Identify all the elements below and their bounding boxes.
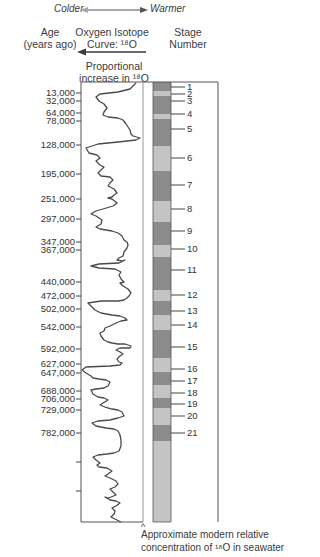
stage-label: 3 [187, 96, 192, 106]
stage-band [153, 358, 171, 372]
stage-label: 7 [187, 180, 192, 190]
age-label: 729,000 [41, 405, 75, 415]
stage-label: 9 [187, 226, 192, 236]
stage-band [153, 201, 171, 222]
stage-band [153, 257, 171, 290]
stage-band [153, 96, 171, 103]
stage-label: 6 [187, 153, 192, 163]
stage-band [153, 82, 171, 91]
age-label: 782,000 [41, 428, 75, 438]
stage-label: 5 [187, 124, 192, 134]
stage-band [153, 315, 171, 330]
stage-bands [153, 82, 171, 522]
stage-band [153, 146, 171, 171]
age-label: 367,000 [41, 245, 75, 255]
stage-band [153, 222, 171, 245]
age-label: 647,000 [41, 368, 75, 378]
stage-label: 16 [187, 364, 198, 374]
stage-label: 12 [187, 290, 198, 300]
stage-label: 21 [187, 428, 198, 438]
footer-caption-line1: Approximate modern relative [141, 529, 269, 541]
stage-band [153, 103, 171, 114]
stage-band [153, 372, 171, 385]
stage-label: 8 [187, 204, 192, 214]
stage-band [153, 398, 171, 408]
stage-label: 17 [187, 376, 198, 386]
age-label: 592,000 [41, 344, 75, 354]
stage-label: 19 [187, 399, 198, 409]
stage-label: 10 [187, 244, 198, 254]
stage-label: 13 [187, 306, 198, 316]
stage-band [153, 91, 171, 96]
stage-band [153, 171, 171, 201]
age-label: 502,000 [41, 304, 75, 314]
stage-band [153, 301, 171, 315]
age-label: 472,000 [41, 291, 75, 301]
stage-band [153, 290, 171, 301]
age-label: 542,000 [41, 322, 75, 332]
age-label: 128,000 [41, 140, 75, 150]
stage-label: 15 [187, 342, 198, 352]
age-label: 706,000 [41, 394, 75, 404]
stage-band [153, 119, 171, 146]
stage-band [153, 114, 171, 119]
age-label: 440,000 [41, 277, 75, 287]
stage-label: 18 [187, 388, 198, 398]
stage-band [153, 385, 171, 398]
age-ticks [76, 93, 81, 491]
age-label: 195,000 [41, 169, 75, 179]
stage-label: 20 [187, 411, 198, 421]
age-label: 297,000 [41, 214, 75, 224]
age-label: 32,000 [46, 96, 75, 106]
stage-label: 4 [187, 109, 192, 119]
age-label: 251,000 [41, 194, 75, 204]
stage-band [153, 245, 171, 257]
chart-frame [81, 82, 218, 522]
stage-ticks [171, 87, 185, 433]
stage-band [153, 425, 171, 441]
stage-band [153, 441, 171, 522]
age-label: 78,000 [46, 116, 75, 126]
stage-label: 11 [187, 265, 197, 275]
footer-caption-line2: concentration of ¹⁸O in seawater [141, 542, 284, 554]
stage-label: 14 [187, 320, 198, 330]
stage-band [153, 330, 171, 358]
isotope-curve [82, 83, 140, 522]
stage-band [153, 408, 171, 425]
